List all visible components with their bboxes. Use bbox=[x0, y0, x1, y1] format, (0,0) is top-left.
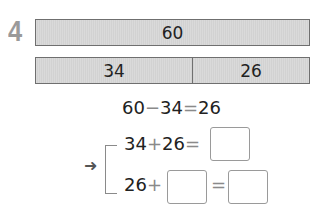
eq-result: 26 bbox=[198, 97, 221, 118]
eq-term: 26 bbox=[162, 133, 185, 154]
main-equation: 60−34=26 bbox=[122, 97, 221, 118]
arrow-icon: ➜ bbox=[84, 156, 97, 175]
part-1-label: 34 bbox=[36, 58, 193, 83]
answer-box-1[interactable] bbox=[210, 127, 250, 161]
equals-sign: = bbox=[185, 133, 200, 154]
equals-sign: = bbox=[183, 97, 198, 118]
problem-number: 4 bbox=[8, 14, 22, 48]
equals-sign: = bbox=[211, 174, 226, 195]
eq-term: 34 bbox=[124, 133, 147, 154]
total-bar: 60 bbox=[35, 19, 310, 46]
part-2-label: 26 bbox=[193, 58, 309, 83]
plus-sign: + bbox=[147, 133, 162, 154]
bracket bbox=[105, 145, 117, 194]
answer-box-2[interactable] bbox=[167, 170, 207, 204]
plus-sign: + bbox=[147, 174, 162, 195]
total-bar-label: 60 bbox=[36, 20, 309, 45]
parts-bar: 34 26 bbox=[35, 57, 310, 84]
check-line-1: 34+26= bbox=[124, 133, 200, 154]
minus-sign: − bbox=[145, 97, 160, 118]
answer-box-3[interactable] bbox=[228, 170, 268, 204]
eq-term: 60 bbox=[122, 97, 145, 118]
eq-term: 26 bbox=[124, 174, 147, 195]
check-line-2: 26+ bbox=[124, 174, 162, 195]
eq-term: 34 bbox=[160, 97, 183, 118]
